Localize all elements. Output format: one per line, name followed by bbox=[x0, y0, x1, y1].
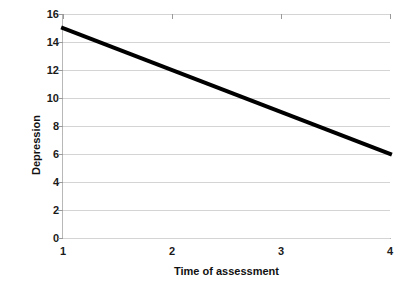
series-layer bbox=[63, 14, 390, 238]
x-tick-mark bbox=[390, 14, 391, 19]
x-tick-label: 4 bbox=[387, 245, 393, 257]
plot-area: 0246810121416 1234 bbox=[63, 14, 390, 238]
depression-trend-line bbox=[63, 28, 390, 154]
x-tick-label: 3 bbox=[278, 245, 284, 257]
x-tick-label: 1 bbox=[60, 245, 66, 257]
chart-figure: Depression 0246810121416 1234 Time of as… bbox=[0, 0, 409, 289]
gridline bbox=[63, 238, 390, 239]
y-axis-title: Depression bbox=[30, 115, 42, 175]
x-tick-label: 2 bbox=[169, 245, 175, 257]
y-tick-mark bbox=[58, 238, 63, 239]
x-axis-title: Time of assessment bbox=[63, 265, 390, 277]
